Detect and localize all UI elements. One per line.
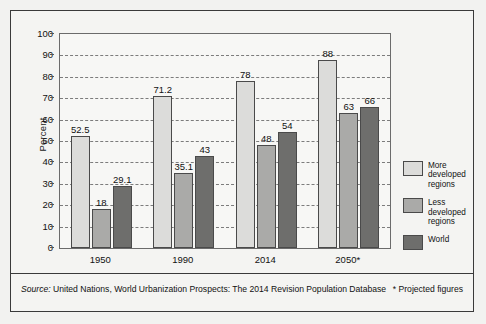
x-axis-tick-label: 1950	[90, 254, 111, 265]
y-axis-tick-label: 20	[23, 199, 53, 210]
bar	[195, 156, 214, 248]
legend-item: More developed regions	[403, 161, 473, 189]
y-axis-tick-mark	[50, 226, 54, 227]
source-body: United Nations, World Urbanization Prosp…	[53, 284, 386, 294]
legend-label: Less developed regions	[428, 198, 473, 226]
gridline	[60, 55, 390, 56]
legend-swatch	[403, 161, 423, 176]
y-axis-tick-mark	[50, 119, 54, 120]
bar-value-label: 71.2	[154, 84, 173, 95]
plot-area: 52.51829.171.235.143784854886366	[59, 33, 391, 249]
y-axis-tick-mark	[50, 76, 54, 77]
bar-value-label: 35.1	[175, 161, 194, 172]
chart-footer: Source: United Nations, World Urbanizati…	[11, 273, 473, 311]
bar-value-label: 52.5	[71, 124, 90, 135]
y-axis-tick-mark	[50, 161, 54, 162]
bar-value-label: 18	[96, 197, 107, 208]
bar-value-label: 43	[199, 144, 210, 155]
bar-value-label: 88	[322, 48, 333, 59]
y-axis-tick-label: 70	[23, 92, 53, 103]
bar	[113, 186, 132, 248]
y-axis-tick-mark	[50, 54, 54, 55]
bar-value-label: 48	[261, 133, 272, 144]
legend-swatch	[403, 235, 423, 250]
projected-figures-note: * Projected figures	[393, 284, 463, 294]
x-axis-tick-label: 2050*	[335, 254, 360, 265]
bar	[153, 96, 172, 248]
gridline	[60, 77, 390, 78]
bar-value-label: 54	[282, 120, 293, 131]
y-axis-tick-label: 50	[23, 135, 53, 146]
bar-value-label: 29.1	[113, 174, 132, 185]
legend-item: World	[403, 235, 473, 250]
source-text: Source: United Nations, World Urbanizati…	[21, 284, 386, 294]
y-axis-tick-label: 90	[23, 49, 53, 60]
bar	[339, 113, 358, 248]
gridline	[60, 98, 390, 99]
y-axis-tick-mark	[50, 183, 54, 184]
bar	[71, 136, 90, 248]
chart-legend: More developed regionsLess developed reg…	[403, 161, 473, 259]
y-axis-tick-mark	[50, 33, 54, 34]
bar	[318, 60, 337, 248]
y-axis-tick-label: 100	[23, 28, 53, 39]
legend-label: World	[428, 235, 449, 244]
bar-value-label: 63	[343, 101, 354, 112]
legend-label: More developed regions	[428, 161, 473, 189]
y-axis-tick-label: 80	[23, 70, 53, 81]
y-axis-tick-mark	[50, 247, 54, 248]
chart-frame: Percent 1009080706050403020100 52.51829.…	[10, 10, 474, 312]
y-axis-tick-label: 60	[23, 113, 53, 124]
y-axis-tick-label: 10	[23, 220, 53, 231]
y-axis-tick-mark	[50, 97, 54, 98]
x-axis-tick-label: 1990	[172, 254, 193, 265]
legend-item: Less developed regions	[403, 198, 473, 226]
bar	[257, 145, 276, 248]
bar	[174, 173, 193, 248]
source-prefix: Source:	[21, 284, 51, 294]
y-axis-tick-label: 0	[23, 242, 53, 253]
bar	[278, 132, 297, 248]
bar	[360, 107, 379, 248]
bar-value-label: 78	[240, 69, 251, 80]
y-axis-tick-mark	[50, 140, 54, 141]
bar	[92, 209, 111, 248]
legend-swatch	[403, 198, 423, 213]
bar	[236, 81, 255, 248]
bar-value-label: 66	[364, 95, 375, 106]
y-axis-ticks: 1009080706050403020100	[21, 27, 53, 249]
y-axis-tick-label: 30	[23, 177, 53, 188]
y-axis-tick-mark	[50, 204, 54, 205]
y-axis-tick-label: 40	[23, 156, 53, 167]
x-axis-tick-label: 2014	[255, 254, 276, 265]
